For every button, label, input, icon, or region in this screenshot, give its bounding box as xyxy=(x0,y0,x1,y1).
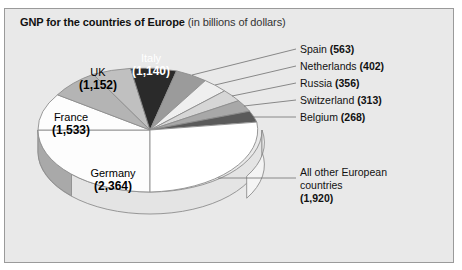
slice-label-germany-value: (2,364) xyxy=(69,180,157,193)
callout-all-other-line1: All other European xyxy=(300,166,387,179)
callout-netherlands: Netherlands (402) xyxy=(300,60,384,73)
slice-label-france-value: (1,533) xyxy=(33,124,109,137)
callout-russia-value: (356) xyxy=(335,77,360,89)
leader-line-spain xyxy=(192,49,296,75)
slice-label-france: France (1,533) xyxy=(33,111,109,137)
leader-line-russia xyxy=(232,83,296,96)
callout-belgium: Belgium (268) xyxy=(300,111,365,124)
callout-netherlands-name: Netherlands xyxy=(300,60,357,72)
leader-line-netherlands xyxy=(215,66,296,85)
callout-all-other: All other European countries (1,920) xyxy=(300,166,387,205)
callout-spain: Spain (563) xyxy=(300,43,354,56)
leader-line-switzerland xyxy=(244,100,296,106)
callout-switzerland: Switzerland (313) xyxy=(300,94,382,107)
callout-belgium-value: (268) xyxy=(341,111,366,123)
callout-netherlands-value: (402) xyxy=(360,60,385,72)
chart-screenshot: GNP for the countries of Europe (in bill… xyxy=(0,0,462,270)
callout-all-other-line2: countries xyxy=(300,179,387,192)
slice-label-uk: UK (1,152) xyxy=(63,66,133,92)
callout-spain-name: Spain xyxy=(300,43,327,55)
callout-russia: Russia (356) xyxy=(300,77,360,90)
slice-label-uk-value: (1,152) xyxy=(63,79,133,92)
callout-switzerland-value: (313) xyxy=(357,94,382,106)
callout-all-other-value: (1,920) xyxy=(300,192,387,205)
callout-belgium-name: Belgium xyxy=(300,111,338,123)
callout-spain-value: (563) xyxy=(330,43,355,55)
slice-label-germany: Germany (2,364) xyxy=(69,167,157,193)
callout-russia-name: Russia xyxy=(300,77,332,89)
callout-switzerland-name: Switzerland xyxy=(300,94,354,106)
